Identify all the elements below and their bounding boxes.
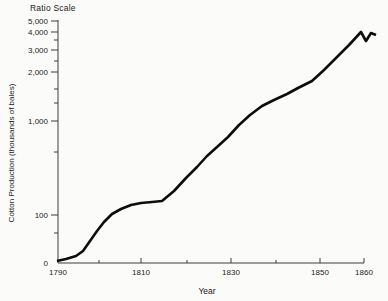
y-axis-tick-label: 2,000 (28, 68, 49, 77)
x-axis-label: Year (198, 286, 215, 296)
axes-lines (58, 20, 364, 263)
y-axis-tick-label: 3,000 (28, 46, 49, 55)
y-axis-tick-label: 5,000 (28, 17, 49, 26)
y-axis-tick-label: 0 (44, 259, 49, 268)
cotton-production-ratio-chart: Ratio Scale Cotton Production (thousands… (0, 0, 388, 301)
y-axis-tick-label: 100 (35, 211, 49, 220)
x-axis-tick-label: 1810 (132, 268, 150, 277)
y-axis-tick-label: 1,000 (28, 117, 49, 126)
plot-area: 5,0004,0003,0002,0001,000100017901810183… (0, 0, 388, 301)
x-axis-tick-label: 1790 (49, 268, 67, 277)
x-axis-tick-label: 1850 (311, 268, 329, 277)
y-axis-tick-label: 4,000 (28, 28, 49, 37)
x-axis-tick-label: 1830 (222, 268, 240, 277)
x-axis-tick-label: 1860 (355, 268, 373, 277)
cotton-production-series-line (57, 32, 376, 261)
